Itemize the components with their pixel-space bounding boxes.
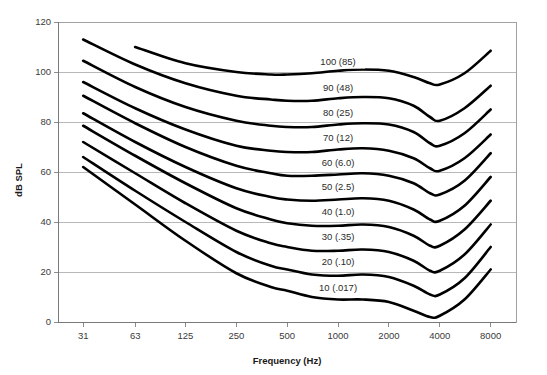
equal-loudness-contour-chart: 020406080100120 316312525050010002000400… [0,0,547,375]
contour-label-10-phon: 10 (.017) [319,282,357,293]
contour-label-70-phon: 70 (12) [323,132,353,143]
contour-label-80-phon: 80 (25) [323,107,353,118]
x-tick-label-8000: 8000 [480,330,501,341]
y-axis-title: dB SPL [13,163,24,197]
x-tick-label-2000: 2000 [378,330,399,341]
y-tick-label-40: 40 [40,216,51,227]
x-tick-label-1000: 1000 [327,330,348,341]
contour-label-100-phon: 100 (85) [320,56,355,67]
y-tick-label-100: 100 [35,66,51,77]
y-tick-label-60: 60 [40,166,51,177]
contour-label-30-phon: 30 (.35) [322,231,355,242]
x-tick-label-125: 125 [178,330,194,341]
x-tick-label-250: 250 [228,330,244,341]
x-tick-label-4000: 4000 [429,330,450,341]
chart-svg: 020406080100120 316312525050010002000400… [0,0,547,375]
x-tick-label-31: 31 [78,330,89,341]
chart-background [0,0,547,375]
y-tick-label-0: 0 [46,316,51,327]
contour-label-90-phon: 90 (48) [323,82,353,93]
contour-label-20-phon: 20 (.10) [322,256,355,267]
contour-label-60-phon: 60 (6.0) [322,157,355,168]
contour-label-50-phon: 50 (2.5) [322,181,355,192]
x-tick-label-500: 500 [279,330,295,341]
y-tick-label-120: 120 [35,16,51,27]
x-tick-label-63: 63 [130,330,141,341]
y-tick-label-80: 80 [40,116,51,127]
contour-label-40-phon: 40 (1.0) [322,206,355,217]
y-tick-label-20: 20 [40,266,51,277]
x-axis-title: Frequency (Hz) [253,355,322,366]
